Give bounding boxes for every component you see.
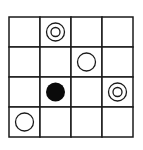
grid-cell-r2-c2 [71,77,102,107]
grid-cell-r0-c2 [71,17,102,47]
grid-cell-r3-c1 [40,107,71,137]
grid-cell-r0-c3 [102,17,133,47]
grid-cell-r3-c0 [9,107,40,137]
grid-cell-r0-c1 [40,17,71,47]
grid-cell-r3-c3 [102,107,133,137]
grid-cell-r2-c0 [9,77,40,107]
grid-cell-r1-c2 [71,47,102,77]
grid-board [8,16,132,136]
filled-circle-icon [46,83,65,102]
grid-svg [8,16,134,138]
grid-cell-r1-c3 [102,47,133,77]
grid-cell-r2-c3 [102,77,133,107]
grid-cell-r1-c1 [40,47,71,77]
grid-cell-r1-c0 [9,47,40,77]
grid-cell-r3-c2 [71,107,102,137]
grid-cell-r0-c0 [9,17,40,47]
